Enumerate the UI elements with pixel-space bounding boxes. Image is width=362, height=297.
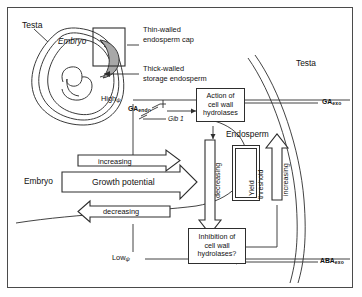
- label-embryo-compartment: Embryo: [24, 176, 53, 186]
- label-decreasing-threshold: decreasing: [213, 163, 222, 198]
- yield-threshold-line1: Yield: [247, 180, 256, 196]
- box-inhibition-cell-wall-hydrolases: Inhibition of cell wall hydrolases?: [188, 228, 246, 264]
- yield-threshold-line2: threshold: [256, 169, 265, 199]
- figure-canvas: Testa Embryo Thin-walled endosperm cap T…: [0, 0, 362, 297]
- inhibition-hydrolases-line3: hydrolases?: [198, 250, 237, 259]
- label-high-water-potential: Highψ: [101, 94, 121, 104]
- label-decreasing-growth: decreasing: [103, 207, 139, 216]
- flow-scheme: [0, 0, 362, 297]
- label-low-water-potential: Lowψ: [112, 253, 130, 263]
- label-gib1-gene: Gib 1: [168, 115, 184, 123]
- label-endosperm: Endosperm: [226, 129, 269, 139]
- label-ga-endo: GAendo: [128, 105, 151, 113]
- label-increasing-threshold: increasing: [281, 163, 290, 196]
- action-hydrolases-line3: hydrolases: [203, 109, 238, 118]
- label-ga-exo: GAexo: [322, 98, 341, 106]
- label-growth-potential: Growth potential: [92, 177, 155, 187]
- label-aba-exo: ABAexo: [320, 257, 344, 265]
- label-testa-right: Testa: [296, 58, 316, 68]
- box-action-cell-wall-hydrolases: Action of cell wall hydrolases: [196, 88, 245, 122]
- label-increasing-growth: increasing: [98, 157, 132, 166]
